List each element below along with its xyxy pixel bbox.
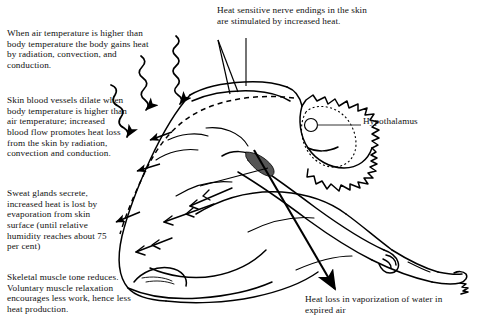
mouth-leader-line (200, 168, 268, 186)
annotation-vasodilation: Skin blood vessels dilate when body temp… (7, 95, 127, 159)
expired-air-heat-loss-arrow (254, 150, 335, 289)
thermoregulation-diagram: When air temperature is higher than body… (0, 0, 481, 335)
body-outline (119, 82, 468, 303)
nerve-endings-leader-line (218, 38, 246, 94)
sweat-evaporation-arrows (136, 188, 232, 255)
hypothalamus-marker (305, 119, 318, 132)
dotted-brain-outline (302, 106, 357, 167)
annotation-heat-gain: When air temperature is higher than body… (7, 28, 159, 71)
annotation-nerve-endings: Heat sensitive nerve endings in the skin… (217, 5, 377, 26)
annotation-sweating: Sweat glands secrete, increased heat is … (7, 188, 119, 252)
annotation-hypothalamus: Hypothalamus (363, 116, 473, 127)
annotation-muscle-tone: Skeletal muscle tone reduces. Voluntary … (7, 272, 137, 315)
annotation-vaporization: Heat loss in vaporization of water in ex… (305, 294, 445, 315)
